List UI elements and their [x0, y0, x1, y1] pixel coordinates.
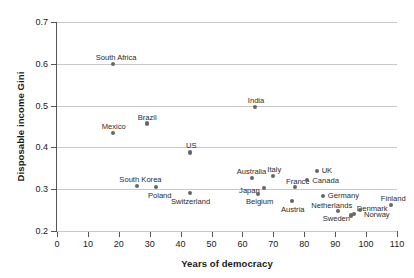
gridline — [57, 106, 397, 107]
x-tick — [366, 232, 367, 237]
data-point-label: Finland — [381, 194, 406, 203]
data-point — [315, 169, 319, 173]
x-tick — [242, 232, 243, 237]
data-point — [256, 192, 260, 196]
x-tick-label: 30 — [135, 239, 165, 250]
data-point-label: Belgium — [246, 197, 273, 206]
x-tick-label: 60 — [227, 239, 257, 250]
data-point-label: Brazil — [138, 113, 157, 122]
data-point — [145, 121, 149, 125]
y-tick-label: 0.2 — [4, 226, 48, 236]
x-tick-label: 80 — [289, 239, 319, 250]
data-point — [188, 150, 192, 154]
x-tick — [150, 232, 151, 237]
x-tick — [57, 232, 58, 237]
y-tick-label: 0.4 — [4, 142, 48, 152]
data-point-label: India — [248, 96, 264, 105]
data-point-label: South Africa — [96, 53, 137, 62]
gridline — [57, 231, 397, 232]
data-point-label: UK — [322, 166, 333, 175]
data-point — [290, 199, 294, 203]
x-tick — [304, 232, 305, 237]
x-tick-label: 50 — [197, 239, 227, 250]
data-point — [352, 212, 356, 216]
scatter-chart: Disposable income Gini Years of democrac… — [0, 0, 414, 278]
x-tick-label: 70 — [258, 239, 288, 250]
data-point-label: Norway — [364, 210, 390, 219]
x-tick-label: 10 — [73, 239, 103, 250]
gridline — [57, 64, 397, 65]
x-tick-label: 20 — [104, 239, 134, 250]
data-point-label: South Korea — [119, 175, 161, 184]
data-point-label: Mexico — [102, 122, 126, 131]
x-tick — [335, 232, 336, 237]
data-point-label: Canada — [312, 176, 339, 185]
y-tick-label: 0.7 — [4, 17, 48, 27]
data-point — [135, 184, 139, 188]
data-point — [188, 191, 192, 195]
data-point-label: Austria — [281, 205, 305, 214]
x-tick-label: 0 — [42, 239, 72, 250]
x-tick — [181, 232, 182, 237]
gridline — [57, 189, 397, 190]
data-point — [111, 131, 115, 135]
data-point — [250, 176, 254, 180]
data-point — [253, 105, 257, 109]
gridline — [57, 22, 397, 23]
data-point-label: Poland — [148, 191, 172, 200]
data-point-label: Australia — [237, 167, 267, 176]
x-tick — [212, 232, 213, 237]
x-tick — [119, 232, 120, 237]
x-tick-label: 90 — [320, 239, 350, 250]
data-point — [111, 62, 115, 66]
data-point — [271, 174, 275, 178]
x-tick-label: 100 — [351, 239, 381, 250]
x-tick — [88, 232, 89, 237]
y-axis-title: Disposable income Gini — [14, 22, 28, 231]
plot-area: South AfricaMexicoBrazilUSSouth KoreaPol… — [57, 22, 397, 231]
y-tick-label: 0.3 — [4, 184, 48, 194]
data-point-label: US — [186, 141, 197, 150]
x-tick-label: 110 — [382, 239, 412, 250]
data-point-label: Switzerland — [171, 197, 210, 206]
data-point-label: Germany — [328, 191, 359, 200]
x-tick — [273, 232, 274, 237]
data-point-label: Netherlands — [311, 201, 352, 210]
y-tick-label: 0.5 — [4, 101, 48, 111]
data-point-label: Italy — [267, 165, 281, 174]
data-point — [321, 194, 325, 198]
y-tick-label: 0.6 — [4, 59, 48, 69]
x-axis-title: Years of democracy — [57, 258, 397, 269]
x-tick — [397, 232, 398, 237]
gridline — [57, 147, 397, 148]
data-point-label: Sweden — [323, 214, 350, 223]
x-tick-label: 40 — [166, 239, 196, 250]
data-point — [389, 203, 393, 207]
